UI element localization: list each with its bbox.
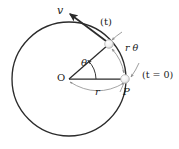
point-p-label: P (123, 87, 130, 97)
origin-label: O (57, 73, 65, 83)
velocity-label: v (57, 5, 63, 16)
arc-length-indicator (112, 49, 124, 73)
position-marker-t (105, 40, 114, 49)
angle-theta-label: θ (81, 58, 87, 68)
angle-theta-arc (88, 61, 96, 80)
callout-leader-t0 (131, 63, 139, 77)
radius-line-to-t (69, 45, 108, 79)
position-at-t0-label: (t = 0) (142, 70, 173, 80)
callout-leader-t (112, 32, 122, 40)
circular-motion-figure: v (t) r θ (t = 0) P O θ r (0, 0, 179, 149)
radius-label: r (95, 87, 100, 97)
position-marker-p (121, 75, 130, 84)
arc-length-label: r θ (125, 43, 138, 53)
position-at-t-label: (t) (100, 17, 112, 27)
